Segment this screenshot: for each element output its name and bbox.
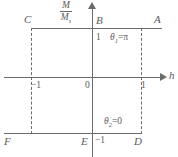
x-axis-line — [4, 77, 162, 78]
x-axis-name-label: h — [169, 70, 175, 81]
point-label-e: E — [81, 136, 88, 147]
origin-label: 0 — [85, 81, 90, 91]
point-label-a: A — [154, 14, 161, 25]
theta1-annotation: θ1=π — [110, 33, 128, 44]
point-label-f: F — [4, 136, 11, 147]
upper-branch-line — [31, 28, 162, 29]
y-axis-label: M Ms — [60, 1, 72, 23]
point-label-d: D — [134, 136, 142, 147]
hysteresis-loop-figure: M Ms C B A F E D 1 −1 −1 1 0 h θ1=π θ2=0 — [0, 0, 178, 157]
y-axis-arrowhead-icon — [88, 2, 96, 9]
y-axis-label-denominator: Ms — [60, 12, 72, 23]
lower-branch-line — [4, 133, 141, 134]
theta2-annotation: θ2=0 — [104, 117, 122, 128]
point-label-c: C — [24, 14, 31, 25]
x-tick-label-negative-one: −1 — [31, 81, 41, 91]
y-axis-line — [92, 8, 93, 157]
y-tick-label-negative-one: −1 — [95, 136, 105, 146]
point-label-b: B — [96, 15, 103, 26]
x-tick-label-positive-one: 1 — [141, 81, 146, 91]
x-axis-arrowhead-icon — [160, 73, 167, 81]
y-axis-label-numerator: M — [60, 1, 72, 12]
y-tick-label-positive-one: 1 — [96, 33, 101, 43]
